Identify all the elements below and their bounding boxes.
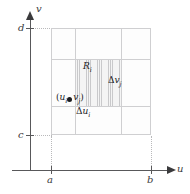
delta-v-label: Δvj (108, 76, 122, 85)
u-axis-label: u (177, 164, 183, 174)
delta-u-sub: i (88, 111, 90, 119)
grid-line-vertical-1 (75, 29, 76, 134)
partitioned-region (51, 28, 151, 135)
tick-mark-a (51, 166, 52, 174)
subrectangle-label: Ri (83, 62, 92, 71)
subrectangle-label-base: R (83, 61, 90, 71)
tick-mark-b (151, 166, 152, 174)
tick-mark-d (26, 28, 34, 29)
subrectangle-label-sub: i (90, 66, 92, 74)
delta-u-label: Δui (76, 107, 90, 116)
delta-v-sub: j (120, 80, 122, 88)
grid-line-horizontal-1 (52, 59, 150, 60)
sample-point-close-paren: ) (80, 92, 84, 102)
arrow-up-icon (26, 11, 34, 20)
uv-plane-partition-figure: v u d c a b Ri (ui, vj) Δvj Δui (0, 0, 190, 194)
v-axis-label: v (36, 4, 42, 14)
tick-label-c: c (18, 130, 24, 140)
arrow-right-icon (167, 166, 176, 174)
guide-line-c (31, 135, 52, 136)
guide-line-a (51, 136, 52, 168)
u-axis-line (12, 170, 172, 171)
tick-mark-c (26, 135, 34, 136)
grid-line-horizontal-2 (52, 106, 150, 107)
tick-label-b: b (147, 175, 153, 185)
guide-line-b (151, 136, 152, 168)
v-axis-line (30, 17, 31, 171)
tick-label-d: d (18, 23, 24, 33)
sample-point-label: (ui, vj) (56, 93, 84, 102)
tick-label-a: a (47, 175, 53, 185)
guide-line-d (31, 28, 52, 29)
